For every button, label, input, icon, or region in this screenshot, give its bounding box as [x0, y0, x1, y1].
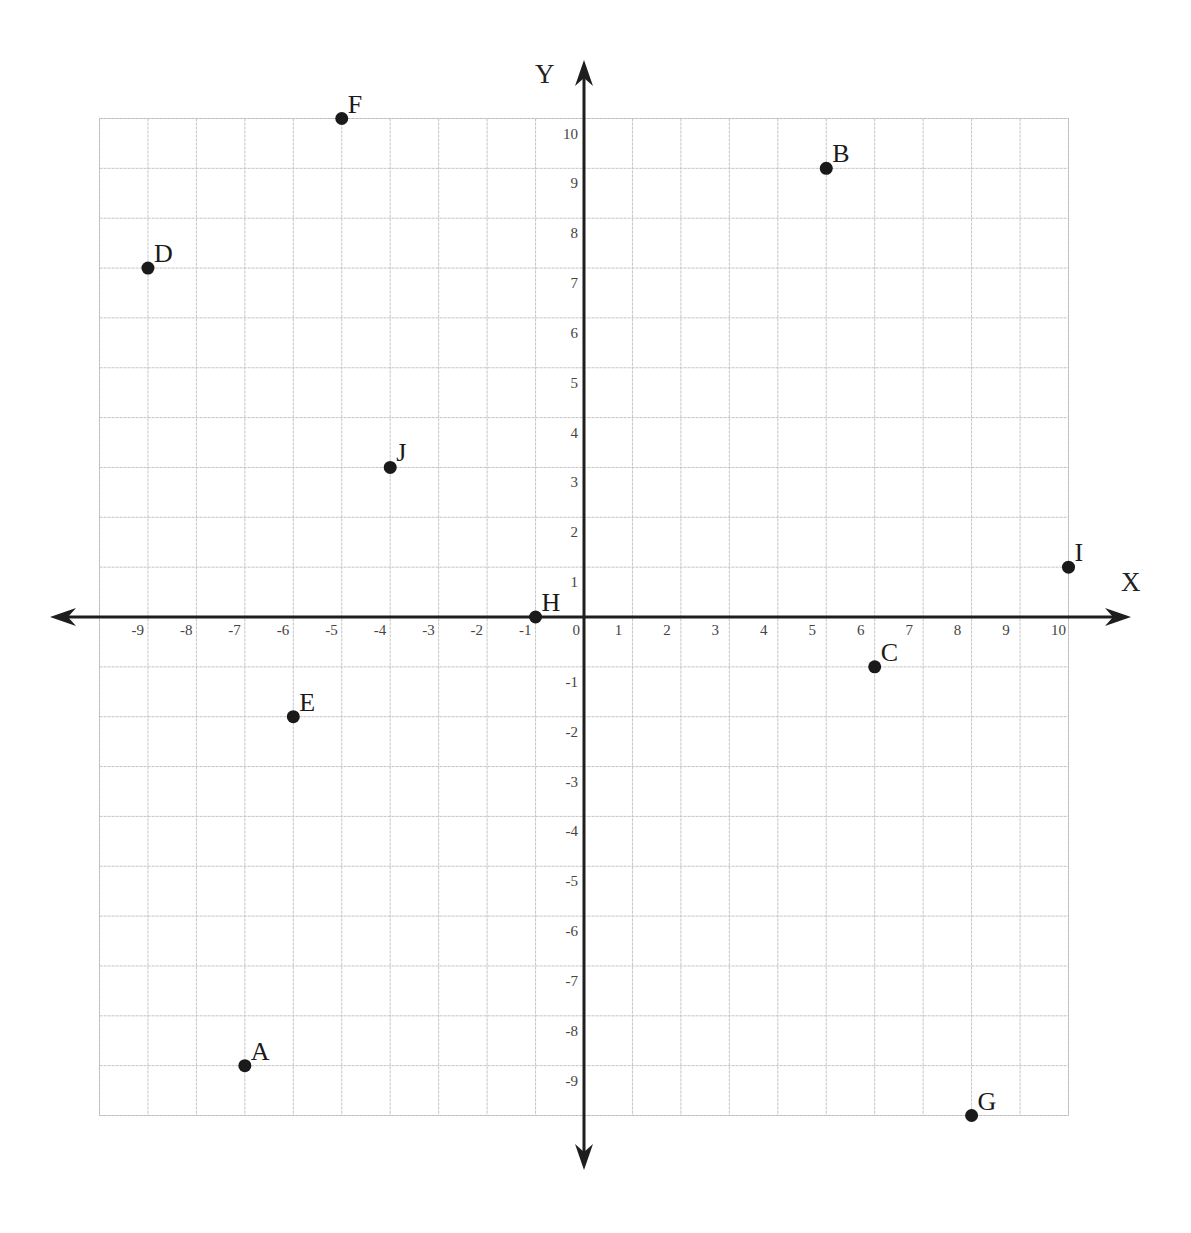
data-point-g: G [965, 1087, 996, 1123]
point-label: C [881, 638, 898, 667]
tick-labels: -9-8-7-6-5-4-3-2-10123456789101098765432… [131, 126, 1066, 1089]
point-marker-icon [1062, 561, 1075, 574]
x-tick-label: 0 [573, 622, 581, 638]
point-label: B [832, 139, 849, 168]
x-tick-label: -1 [519, 622, 532, 638]
point-label: I [1075, 538, 1084, 567]
point-marker-icon [868, 660, 881, 673]
x-tick-label: 4 [760, 622, 768, 638]
coordinate-plane: X Y -9-8-7-6-5-4-3-2-1012345678910109876… [0, 0, 1191, 1233]
point-marker-icon [529, 611, 542, 624]
y-tick-label: -4 [566, 823, 579, 839]
x-tick-label: -9 [131, 622, 144, 638]
data-point-a: A [238, 1037, 270, 1073]
point-marker-icon [384, 461, 397, 474]
point-marker-icon [238, 1059, 251, 1072]
y-tick-label: 10 [563, 126, 578, 142]
y-tick-label: 9 [571, 175, 579, 191]
point-label: G [978, 1087, 997, 1116]
data-point-f: F [335, 90, 362, 126]
point-label: A [251, 1037, 270, 1066]
axes: X Y [50, 59, 1141, 1170]
y-tick-label: 7 [571, 275, 579, 291]
x-tick-label: 2 [663, 622, 671, 638]
x-tick-label: -3 [422, 622, 435, 638]
y-tick-label: -7 [566, 973, 579, 989]
point-marker-icon [965, 1109, 978, 1122]
x-tick-label: 10 [1051, 622, 1066, 638]
y-tick-label: -3 [566, 774, 579, 790]
y-tick-label: -6 [566, 923, 579, 939]
x-tick-label: 1 [615, 622, 623, 638]
y-tick-label: 4 [571, 425, 579, 441]
x-tick-label: -2 [471, 622, 484, 638]
point-label: D [154, 239, 173, 268]
y-tick-label: -9 [566, 1073, 579, 1089]
x-axis-label: X [1121, 567, 1141, 597]
y-axis-label: Y [535, 59, 555, 89]
y-tick-label: -2 [566, 724, 579, 740]
point-marker-icon [141, 262, 154, 275]
point-label: E [299, 688, 315, 717]
point-label: F [348, 90, 362, 119]
y-tick-label: 2 [571, 524, 579, 540]
data-point-e: E [287, 688, 315, 724]
point-marker-icon [287, 710, 300, 723]
x-tick-label: -6 [277, 622, 290, 638]
point-marker-icon [335, 112, 348, 125]
x-tick-label: 7 [905, 622, 913, 638]
y-tick-label: -8 [566, 1023, 579, 1039]
x-tick-label: -7 [228, 622, 241, 638]
x-tick-label: -4 [374, 622, 387, 638]
data-point-j: J [384, 438, 407, 474]
y-tick-label: 6 [571, 325, 579, 341]
y-tick-label: 3 [571, 474, 579, 490]
y-tick-label: 5 [571, 375, 579, 391]
x-tick-label: 6 [857, 622, 865, 638]
point-label: H [542, 588, 561, 617]
data-point-c: C [868, 638, 898, 674]
data-point-b: B [820, 139, 850, 175]
x-tick-label: 5 [809, 622, 817, 638]
y-tick-label: -5 [566, 873, 579, 889]
point-label: J [396, 438, 406, 467]
y-tick-label: 8 [571, 225, 579, 241]
x-tick-label: 8 [954, 622, 962, 638]
data-point-d: D [141, 239, 172, 275]
x-tick-label: -5 [325, 622, 338, 638]
point-marker-icon [820, 162, 833, 175]
y-tick-label: -1 [566, 674, 579, 690]
x-tick-label: 3 [712, 622, 720, 638]
data-points: ABCDEFGHIJ [141, 90, 1083, 1123]
x-tick-label: -8 [180, 622, 193, 638]
data-point-i: I [1062, 538, 1083, 574]
y-tick-label: 1 [571, 574, 579, 590]
x-tick-label: 9 [1002, 622, 1010, 638]
